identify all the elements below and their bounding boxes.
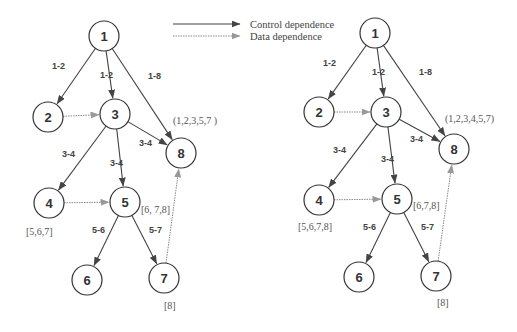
- dependence-set-label: (1,2,3,4,5,7): [445, 113, 494, 125]
- dependence-set-label: [5,6,7,8]: [298, 221, 332, 232]
- data-edge-2-3: [63, 115, 99, 117]
- control-edge-1-2: [328, 45, 366, 99]
- node-1: 1: [89, 21, 119, 51]
- node-5: 5: [110, 187, 140, 217]
- node-label: 1: [371, 26, 378, 41]
- edge-label: 1-2: [100, 70, 113, 80]
- node-label: 5: [121, 195, 128, 210]
- dependence-set-label: [6, 7,8]: [141, 204, 170, 215]
- node-6: 6: [344, 262, 374, 292]
- node-label: 6: [355, 270, 362, 285]
- dependence-set-label: (1,2,3,5,7 ): [173, 115, 217, 127]
- node-label: 6: [83, 273, 90, 288]
- node-label: 3: [382, 105, 389, 120]
- dependence-set-label: [8]: [164, 300, 176, 311]
- graph-left: 1-21-21-83-43-43-45-65-712384567(1,2,3,5…: [26, 21, 217, 311]
- edge-label: 1-2: [372, 67, 385, 77]
- node-2: 2: [33, 102, 63, 132]
- node-label: 8: [450, 142, 457, 157]
- dependence-set-label: [5,6,7]: [26, 226, 53, 237]
- edge-label: 3-4: [110, 158, 123, 168]
- edge-label: 5-6: [363, 222, 376, 232]
- edge-label: 5-6: [92, 225, 105, 235]
- node-7: 7: [149, 263, 179, 293]
- edge-label: 1-8: [419, 67, 432, 77]
- dependence-set-label: [8]: [437, 297, 449, 308]
- legend-data-dependence: Data dependence: [173, 31, 322, 42]
- node-8: 8: [166, 138, 196, 168]
- legend: Control dependence Data dependence: [173, 19, 335, 42]
- node-label: 7: [432, 269, 439, 284]
- node-8: 8: [439, 134, 469, 164]
- node-3: 3: [100, 99, 130, 129]
- dependence-set-label: [6,7,8]: [413, 200, 440, 211]
- node-label: 7: [160, 271, 167, 286]
- node-label: 5: [393, 192, 400, 207]
- node-label: 8: [177, 146, 184, 161]
- node-label: 4: [315, 193, 323, 208]
- data-edge-7-8: [166, 169, 179, 263]
- edge-label: 1-2: [323, 58, 336, 68]
- node-3: 3: [371, 97, 401, 127]
- node-4: 4: [34, 188, 64, 218]
- node-label: 4: [45, 196, 53, 211]
- node-7: 7: [421, 261, 451, 291]
- node-5: 5: [382, 184, 412, 214]
- data-edge-4-5: [334, 199, 381, 200]
- legend-control-dependence: Control dependence: [173, 19, 335, 30]
- edge-label: 3-4: [381, 154, 394, 164]
- legend-data-label: Data dependence: [250, 31, 322, 42]
- node-label: 2: [315, 105, 322, 120]
- control-edge-1-2: [57, 48, 95, 104]
- edge-label: 1-8: [148, 71, 161, 81]
- node-4: 4: [304, 185, 334, 215]
- node-1: 1: [360, 18, 390, 48]
- node-6: 6: [72, 265, 102, 295]
- node-label: 2: [44, 110, 51, 125]
- edge-label: 1-2: [52, 61, 65, 71]
- edge-label: 3-4: [333, 145, 346, 155]
- data-edge-4-5: [64, 202, 109, 203]
- data-edge-7-8: [438, 165, 452, 261]
- dependence-graph-canvas: Control dependence Data dependence 1-21-…: [0, 0, 517, 332]
- legend-control-label: Control dependence: [250, 19, 335, 30]
- control-edge-5-6: [366, 213, 390, 263]
- node-label: 1: [100, 29, 107, 44]
- edge-label: 5-7: [421, 222, 434, 232]
- node-label: 3: [111, 107, 118, 122]
- edge-label: 3-4: [62, 149, 75, 159]
- graph-right: 1-21-21-83-43-43-45-65-712384567(1,2,3,4…: [298, 18, 494, 308]
- control-edge-5-7: [132, 215, 157, 263]
- node-2: 2: [304, 97, 334, 127]
- edge-label: 3-4: [139, 138, 152, 148]
- control-edge-5-7: [404, 212, 429, 261]
- edge-label: 3-4: [410, 134, 423, 144]
- edge-label: 5-7: [149, 225, 162, 235]
- control-edge-5-6: [94, 216, 118, 266]
- control-edge-3-4: [329, 124, 377, 187]
